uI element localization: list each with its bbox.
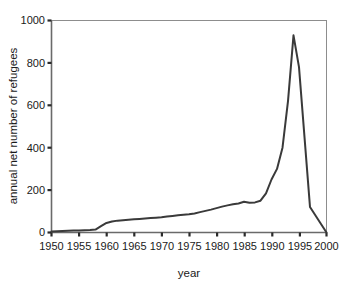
y-tick-label-800: 800 <box>27 57 45 69</box>
x-tick-label-1965: 1965 <box>122 240 146 252</box>
x-axis-title: year <box>178 267 201 279</box>
y-tick-label-0: 0 <box>39 226 45 238</box>
x-tick-label-1985: 1985 <box>232 240 256 252</box>
x-tick-label-2000: 2000 <box>314 240 338 252</box>
y-tick-label-200: 200 <box>27 184 45 196</box>
y-tick-label-400: 400 <box>27 142 45 154</box>
x-tick-label-1990: 1990 <box>260 240 284 252</box>
data-series-line <box>52 35 327 232</box>
x-tick-label-1955: 1955 <box>67 240 91 252</box>
y-axis-title: annual net number of refugees <box>7 47 19 204</box>
refugees-line-chart: 0 200 400 600 800 1000 1950 1955 1960 <box>0 0 351 291</box>
x-tick-label-1970: 1970 <box>150 240 174 252</box>
chart-canvas: 0 200 400 600 800 1000 1950 1955 1960 <box>0 0 351 291</box>
x-tick-label-1980: 1980 <box>205 240 229 252</box>
x-tick-label-1950: 1950 <box>39 240 63 252</box>
x-tick-label-1975: 1975 <box>177 240 201 252</box>
x-tick-label-1960: 1960 <box>94 240 118 252</box>
y-tick-label-600: 600 <box>27 99 45 111</box>
x-tick-label-1995: 1995 <box>288 240 312 252</box>
x-axis-tick-labels: 1950 1955 1960 1965 1970 1975 1980 1985 … <box>39 240 338 252</box>
y-tick-label-1000: 1000 <box>21 14 45 26</box>
y-axis-tick-labels: 0 200 400 600 800 1000 <box>21 14 45 238</box>
